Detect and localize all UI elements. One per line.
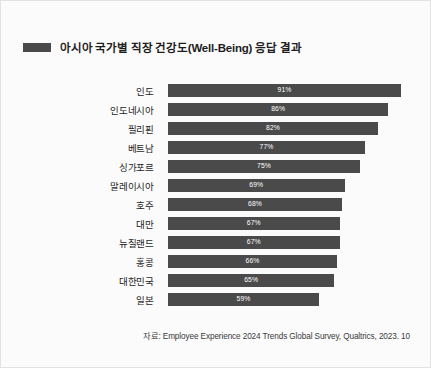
bar-chart-plot-area: 인도91%인도네시아86%필리핀82%베트남77%싱가포르75%말레이시아69%… bbox=[1, 81, 431, 317]
bar-track: 75% bbox=[168, 160, 424, 173]
bar-value-label: 77% bbox=[260, 144, 274, 151]
bar-track: 69% bbox=[168, 179, 424, 192]
bar-row: 뉴질랜드67% bbox=[1, 233, 431, 252]
bar-row: 베트남77% bbox=[1, 138, 431, 157]
bar-value-label: 82% bbox=[266, 125, 280, 132]
chart-figure: 아시아 국가별 직장 건강도(Well-Being) 응답 결과 인도91%인도… bbox=[0, 0, 431, 368]
chart-title-row: 아시아 국가별 직장 건강도(Well-Being) 응답 결과 bbox=[23, 39, 301, 55]
title-marker-swatch bbox=[23, 43, 51, 52]
category-label: 필리핀 bbox=[1, 122, 161, 136]
category-label: 인도네시아 bbox=[1, 103, 161, 117]
bar: 67% bbox=[168, 217, 340, 230]
category-label: 뉴질랜드 bbox=[1, 236, 161, 250]
bar-row: 일본59% bbox=[1, 290, 431, 309]
bar: 59% bbox=[168, 293, 319, 306]
bar-track: 91% bbox=[168, 84, 424, 97]
source-note: 자료: Employee Experience 2024 Trends Glob… bbox=[143, 329, 410, 341]
bar-row: 인도91% bbox=[1, 81, 431, 100]
bar: 86% bbox=[168, 103, 388, 116]
category-label: 홍콩 bbox=[1, 255, 161, 269]
bar-track: 68% bbox=[168, 198, 424, 211]
bar-value-label: 65% bbox=[244, 277, 258, 284]
bar-track: 67% bbox=[168, 217, 424, 230]
category-label: 호주 bbox=[1, 198, 161, 212]
bar-row: 호주68% bbox=[1, 195, 431, 214]
category-label: 말레이시아 bbox=[1, 179, 161, 193]
bar-row: 인도네시아86% bbox=[1, 100, 431, 119]
bar: 68% bbox=[168, 198, 342, 211]
bar-row: 대한민국65% bbox=[1, 271, 431, 290]
bar-value-label: 86% bbox=[271, 106, 285, 113]
bar-value-label: 66% bbox=[246, 258, 260, 265]
bar: 75% bbox=[168, 160, 360, 173]
category-label: 대만 bbox=[1, 217, 161, 231]
bar-value-label: 69% bbox=[249, 182, 263, 189]
category-label: 대한민국 bbox=[1, 274, 161, 288]
bar: 77% bbox=[168, 141, 365, 154]
bar-row: 대만67% bbox=[1, 214, 431, 233]
bar-track: 86% bbox=[168, 103, 424, 116]
bar-value-label: 67% bbox=[247, 220, 261, 227]
bar: 65% bbox=[168, 274, 334, 287]
bar-row: 필리핀82% bbox=[1, 119, 431, 138]
bar-track: 82% bbox=[168, 122, 424, 135]
bar: 67% bbox=[168, 236, 340, 249]
bar: 66% bbox=[168, 255, 337, 268]
page-title: 아시아 국가별 직장 건강도(Well-Being) 응답 결과 bbox=[60, 39, 301, 55]
bar-row: 말레이시아69% bbox=[1, 176, 431, 195]
bar-track: 66% bbox=[168, 255, 424, 268]
bar-track: 59% bbox=[168, 293, 424, 306]
bar-value-label: 68% bbox=[248, 201, 262, 208]
bar-row: 싱가포르75% bbox=[1, 157, 431, 176]
bar: 69% bbox=[168, 179, 345, 192]
category-label: 베트남 bbox=[1, 141, 161, 155]
category-label: 싱가포르 bbox=[1, 160, 161, 174]
bar-value-label: 59% bbox=[237, 296, 251, 303]
bar: 82% bbox=[168, 122, 378, 135]
bar-value-label: 75% bbox=[257, 163, 271, 170]
bar-track: 77% bbox=[168, 141, 424, 154]
bar-value-label: 67% bbox=[247, 239, 261, 246]
category-label: 인도 bbox=[1, 84, 161, 98]
bar-row: 홍콩66% bbox=[1, 252, 431, 271]
bar: 91% bbox=[168, 84, 401, 97]
bar-track: 67% bbox=[168, 236, 424, 249]
bar-track: 65% bbox=[168, 274, 424, 287]
category-label: 일본 bbox=[1, 293, 161, 307]
bar-value-label: 91% bbox=[278, 87, 292, 94]
